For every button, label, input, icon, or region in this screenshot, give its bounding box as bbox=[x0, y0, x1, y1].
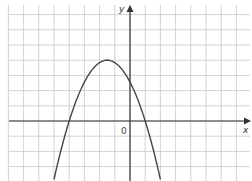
parabola-curve bbox=[54, 60, 160, 179]
grid-lines bbox=[8, 5, 250, 181]
y-axis-label: y bbox=[118, 4, 125, 14]
x-axis-label: x bbox=[242, 125, 249, 135]
origin-label: 0 bbox=[121, 126, 127, 136]
y-axis-arrow-icon bbox=[127, 5, 134, 12]
parabola-chart: x y 0 bbox=[0, 0, 252, 181]
axes bbox=[9, 5, 251, 181]
x-axis-arrow-icon bbox=[244, 118, 251, 125]
